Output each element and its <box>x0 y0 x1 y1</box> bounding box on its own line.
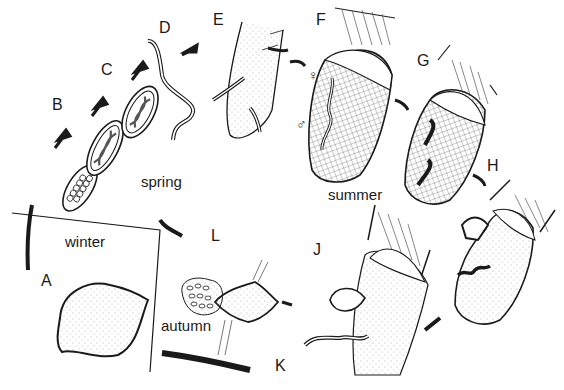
label-k: K <box>275 358 286 374</box>
label-g: G <box>417 53 429 69</box>
stage-j-root-female <box>305 205 440 375</box>
stage-k-female <box>215 260 278 355</box>
label-c: C <box>101 62 113 78</box>
stage-a-cyst <box>58 284 148 356</box>
season-spring: spring <box>141 174 182 189</box>
season-autumn: autumn <box>161 318 211 333</box>
life-cycle-illustration <box>0 0 564 390</box>
label-j: J <box>313 242 321 258</box>
female-symbol: ♀ <box>308 68 319 82</box>
stage-l-egg-mass <box>182 278 223 315</box>
label-f: F <box>316 12 326 28</box>
male-symbol: ♂ <box>296 117 307 131</box>
season-winter: winter <box>65 234 105 249</box>
label-b: B <box>52 97 63 113</box>
season-summer: summer <box>328 187 382 202</box>
label-e: E <box>213 12 224 28</box>
label-a: A <box>41 273 52 289</box>
stage-f-root-tip <box>309 8 395 182</box>
label-l: L <box>211 228 220 244</box>
label-d: D <box>159 20 171 36</box>
stage-e-root <box>213 22 288 138</box>
label-h: H <box>487 158 499 174</box>
stage-h-root-tip <box>455 180 555 324</box>
